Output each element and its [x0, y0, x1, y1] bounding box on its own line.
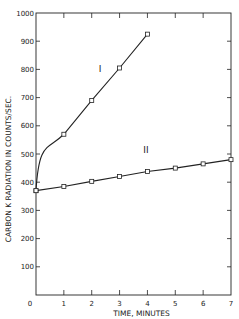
y-tick-label: 600	[21, 122, 34, 130]
y-tick-label: 100	[21, 263, 34, 271]
data-point-marker	[201, 162, 205, 166]
y-tick-label: 500	[21, 151, 34, 159]
y-tick-labels: 1002003004005006007008009001000	[16, 10, 34, 272]
data-point-marker	[62, 132, 66, 136]
y-tick-label: 300	[21, 207, 34, 215]
series-I	[34, 32, 149, 193]
series-label-I: I	[99, 64, 102, 74]
x-tick-label: 0	[28, 300, 32, 308]
line-chart: 1002003004005006007008009001000 01234567…	[0, 0, 239, 319]
x-axis-title: TIME, MINUTES	[112, 309, 170, 318]
data-point-marker	[90, 98, 94, 102]
y-tick-label: 200	[21, 235, 34, 243]
plot-border	[36, 13, 231, 295]
data-point-marker	[145, 169, 149, 173]
x-tick-label: 7	[229, 300, 233, 308]
y-tick-label: 700	[21, 94, 34, 102]
y-tick-label: 800	[21, 66, 34, 74]
data-point-marker	[34, 189, 38, 193]
x-tick-label: 6	[201, 300, 206, 308]
x-tick-labels: 01234567	[28, 300, 233, 308]
series-line	[36, 34, 147, 191]
chart: 1002003004005006007008009001000 01234567…	[0, 0, 239, 319]
x-tick-label: 5	[173, 300, 177, 308]
data-point-marker	[90, 179, 94, 183]
x-tick-label: 1	[62, 300, 66, 308]
data-point-marker	[145, 32, 149, 36]
data-point-marker	[118, 175, 122, 179]
x-tick-label: 2	[89, 300, 93, 308]
x-tick-label: 3	[117, 300, 121, 308]
data-point-marker	[229, 158, 233, 162]
data-series	[34, 32, 233, 193]
series-II	[34, 158, 233, 193]
data-point-marker	[118, 66, 122, 70]
x-tick-label: 4	[145, 300, 150, 308]
y-tick-label: 400	[21, 179, 34, 187]
y-tick-label: 1000	[16, 10, 34, 18]
data-point-marker	[173, 166, 177, 170]
plot-frame	[36, 13, 231, 295]
series-label-II: II	[143, 145, 148, 155]
axis-ticks	[36, 13, 231, 295]
data-point-marker	[62, 184, 66, 188]
y-axis-title: CARBON K RADIATION IN COUNTS/SEC.	[4, 96, 13, 243]
y-tick-label: 900	[21, 38, 34, 46]
